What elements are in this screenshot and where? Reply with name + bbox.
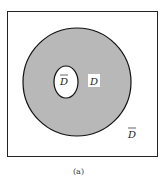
figure-caption: (a)	[73, 167, 84, 176]
inner-hole-label: D	[59, 75, 68, 87]
label-d-bar-outer: D	[127, 129, 136, 140]
diagram: D D D (a)	[0, 0, 167, 183]
outer-region-label: D	[127, 128, 136, 140]
label-d-ring: D	[89, 76, 98, 87]
label-d-bar-inner: D	[59, 76, 68, 87]
